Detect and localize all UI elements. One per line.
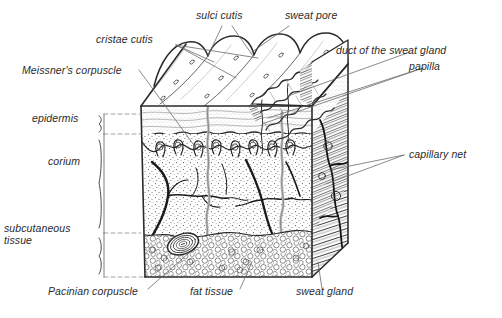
layer-brace-marks — [99, 116, 101, 274]
label-fat-tissue: fat tissue — [190, 285, 233, 297]
label-sweat-gland: sweat gland — [296, 285, 353, 297]
label-cristae-cutis: cristae cutis — [96, 33, 153, 45]
bracket-label-subcutaneous-tissue: subcutaneous tissue — [4, 222, 96, 246]
bracket-label-epidermis: epidermis — [32, 112, 78, 124]
label-papilla: papilla — [409, 60, 440, 72]
bracket-label-corium: corium — [48, 155, 80, 167]
label-pacinian-corpuscle: Pacinian corpuscle — [48, 285, 138, 297]
label-sweat-pore: sweat pore — [285, 9, 337, 21]
figure-canvas: cristae cutis sulci cutis sweat pore Mei… — [0, 0, 502, 318]
label-meissners-corpuscle: Meissner's corpuscle — [22, 64, 122, 76]
layer-bracket-guides — [104, 114, 145, 277]
skin-front-cut-face — [138, 104, 316, 280]
label-capillary-net: capillary net — [409, 148, 466, 160]
label-duct-of-sweat-gland: duct of the sweat gland — [336, 44, 446, 56]
label-sulci-cutis: sulci cutis — [196, 9, 243, 21]
